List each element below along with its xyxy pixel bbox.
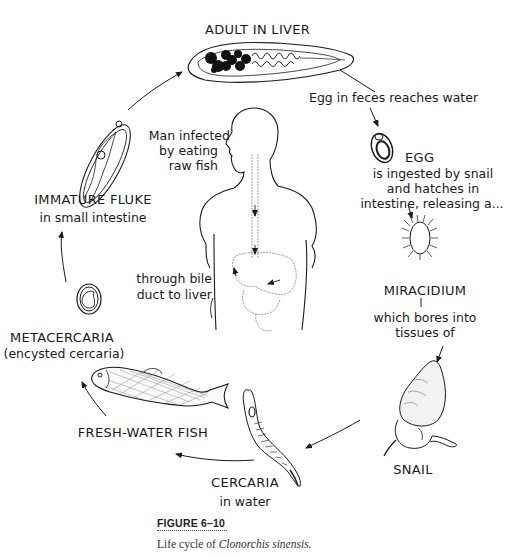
figure-caption: Life cycle of Clonorchis sinensis. [157, 538, 311, 550]
cercaria-icon [243, 390, 300, 487]
label-egg: EGG [405, 150, 434, 165]
caption-species: Clonorchis sinensis. [219, 538, 312, 550]
fish-icon [92, 367, 228, 408]
label-miracidium-desc-2: tissues of [365, 325, 485, 340]
label-egg-in-feces: Egg in feces reaches water [309, 90, 478, 105]
label-egg-desc-3: intestine, releasing a... [352, 196, 509, 211]
label-miracidium-desc-1: which bores into [365, 310, 485, 325]
label-immature-fluke: IMMATURE FLUKE [28, 192, 158, 207]
adult-fluke-icon [188, 43, 353, 83]
figure-number: FIGURE 6–10 [157, 517, 225, 529]
label-man-3: raw fish [145, 158, 218, 173]
label-metacercaria-sub: (encysted cercaria) [0, 346, 128, 361]
label-egg-desc-1: is ingested by snail [358, 166, 508, 181]
label-bile-2: duct to liver [136, 287, 212, 302]
label-man-2: by eating [145, 143, 218, 158]
label-adult-in-liver: ADULT IN LIVER [205, 22, 310, 37]
caption-prefix: Life cycle of [157, 538, 219, 550]
label-fresh-water-fish: FRESH-WATER FISH [68, 425, 218, 440]
metacercaria-icon [77, 284, 101, 314]
label-miracidium: MIRACIDIUM [380, 283, 470, 298]
egg-icon [367, 130, 396, 165]
label-bile-1: through bile [136, 271, 212, 286]
label-cercaria: CERCARIA [200, 475, 290, 490]
label-cercaria-sub: in water [210, 494, 280, 509]
label-snail: SNAIL [388, 462, 438, 477]
figure-divider [157, 530, 227, 531]
miracidium-icon [402, 215, 438, 260]
label-man-1: Man infected [145, 128, 230, 143]
snail-icon [384, 361, 457, 456]
label-metacercaria: METACERCARIA [2, 330, 122, 345]
label-immature-sub: in small intestine [38, 210, 148, 225]
label-egg-desc-2: and hatches in [358, 181, 508, 196]
